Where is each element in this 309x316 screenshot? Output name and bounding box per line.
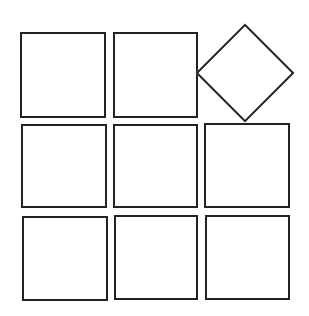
square-r3-c3 bbox=[205, 215, 290, 300]
square-r2-c3 bbox=[204, 123, 290, 208]
square-r3-c1 bbox=[22, 216, 108, 301]
square-r2-c2 bbox=[113, 124, 198, 208]
square-r1-c2 bbox=[113, 32, 198, 118]
diamond-r1-c3 bbox=[196, 24, 295, 123]
square-r3-c2 bbox=[114, 215, 198, 300]
square-r2-c1 bbox=[21, 124, 107, 208]
square-r1-c1 bbox=[20, 32, 106, 118]
shape-grid-diagram bbox=[0, 0, 309, 316]
